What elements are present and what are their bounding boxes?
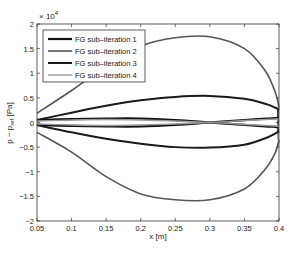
y-tick-label: 0.5 [24,94,34,103]
x-tick-label: 0.15 [99,224,114,233]
x-tick-label: 0.4 [274,224,284,233]
series-line-2-lower [37,132,279,201]
legend-label-1: FG sub–iteration 1 [75,35,137,44]
legend-label-3: FG sub–iteration 3 [75,59,137,68]
legend-label-2: FG sub–iteration 2 [75,47,137,56]
x-tick-label: 0.2 [135,224,145,233]
y-tick-label: 1 [30,69,34,78]
x-tick-label: 0.35 [237,224,252,233]
y-tick-label: 2 [30,20,34,29]
x-tick-label: 0.3 [205,224,215,233]
y-axis-label: p − pref [Pa] [5,102,15,143]
y-exponent-label: × 104 [39,10,59,21]
line-chart: 0.050.10.150.20.250.30.350.4 −2−1.5−1−0.… [0,0,301,257]
x-tick-label: 0.1 [66,224,76,233]
x-axis-label: x [m] [149,232,166,241]
series-line-3-lower [37,125,279,148]
y-tick-label: −2 [25,217,34,226]
legend: FG sub–iteration 1FG sub–iteration 2FG s… [43,30,145,82]
legend-label-4: FG sub–iteration 4 [75,71,137,80]
y-tick-label: −1.5 [19,192,34,201]
y-tick-label: 0 [30,119,34,128]
y-tick-label: −1 [25,168,34,177]
x-tick-label: 0.25 [168,224,183,233]
y-tick-label: −0.5 [19,143,34,152]
y-tick-label: 1.5 [24,45,34,54]
series-line-3-upper [37,96,279,120]
